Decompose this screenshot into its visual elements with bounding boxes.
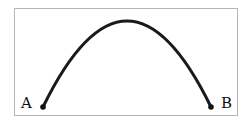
arc-diagram (0, 0, 250, 123)
arc-curve (43, 21, 211, 107)
point-b-dot (208, 104, 214, 110)
point-a-dot (40, 104, 46, 110)
point-b-label: B (221, 96, 232, 111)
point-a-label: A (21, 96, 32, 111)
